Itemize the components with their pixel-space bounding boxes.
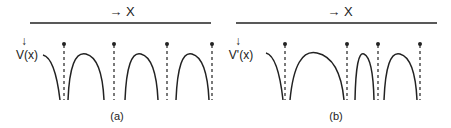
caption-a: (a) xyxy=(110,110,123,122)
arches-a xyxy=(43,54,209,100)
y-label-b: V'(x) xyxy=(229,48,253,62)
diagram: → X ↓ V(x) (a) → X ↓ V'(x) xyxy=(0,0,451,128)
down-arrow-icon-a: ↓ xyxy=(21,34,27,48)
x-axis-label-b: → X xyxy=(327,4,353,19)
dots-a xyxy=(62,42,214,46)
y-label-a: V(x) xyxy=(16,48,38,62)
arches-b xyxy=(266,53,417,100)
panel-a: → X ↓ V(x) (a) xyxy=(16,4,214,122)
caption-b: (b) xyxy=(329,110,342,122)
dots-b xyxy=(283,42,422,46)
x-axis-label-a: → X xyxy=(109,4,135,19)
down-arrow-icon-b: ↓ xyxy=(235,34,241,48)
panel-b: → X ↓ V'(x) (b) xyxy=(229,4,437,122)
